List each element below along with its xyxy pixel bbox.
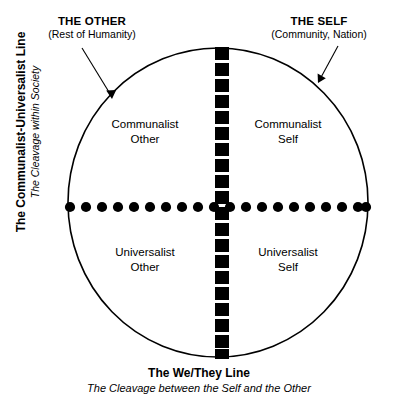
axis-horizontal-subtitle: The Cleavage between the Self and the Ot… (0, 381, 398, 395)
quadrant-label-universalist-self: Universalist Self (233, 245, 343, 276)
leader-arrow-self (318, 46, 338, 83)
quadrant-communalist-other-line1: Communalist (111, 118, 178, 130)
quadrant-universalist-self-line1: Universalist (258, 246, 317, 258)
quadrant-universalist-other-line2: Other (131, 261, 160, 273)
quadrant-label-communalist-other: Communalist Other (90, 117, 200, 148)
quadrant-communalist-self-line1: Communalist (254, 118, 321, 130)
quadrant-label-communalist-self: Communalist Self (233, 117, 343, 148)
leader-arrow-other (82, 48, 116, 99)
axis-title-vertical: The Communalist-Universalist Line The Cl… (14, 12, 54, 252)
callout-self-subtitle: (Community, Nation) (248, 28, 390, 41)
quadrant-label-universalist-other: Universalist Other (90, 245, 200, 276)
callout-self-title: THE SELF (248, 14, 390, 28)
axis-horizontal-title: The We/They Line (0, 366, 398, 381)
diagram-canvas: THE OTHER (Rest of Humanity) THE SELF (C… (0, 0, 398, 401)
quadrant-communalist-other-line2: Other (131, 133, 160, 145)
axis-vertical-title: The Communalist-Universalist Line (14, 12, 29, 252)
axis-title-horizontal: The We/They Line The Cleavage between th… (0, 366, 398, 395)
quadrant-communalist-self-line2: Self (278, 133, 298, 145)
diagram-vector-layer (0, 0, 398, 401)
quadrant-universalist-other-line1: Universalist (115, 246, 174, 258)
quadrant-universalist-self-line2: Self (278, 261, 298, 273)
axis-vertical-subtitle: The Cleavage within Society (29, 12, 42, 252)
callout-self: THE SELF (Community, Nation) (248, 14, 390, 41)
